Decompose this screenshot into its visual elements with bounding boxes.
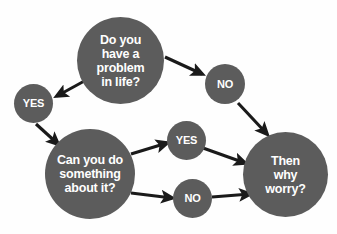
- node-problem-question[interactable]: Do you have a problem in life?: [77, 17, 164, 104]
- arrow-cando-to-no: [131, 193, 172, 198]
- flowchart-diagram: Do you have a problem in life? YES NO Ca…: [0, 0, 337, 234]
- node-no-has-problem-label: NO: [215, 78, 235, 90]
- arrow-no-to-worry: [238, 103, 267, 134]
- node-can-do-something-question[interactable]: Can you do something about it?: [45, 129, 135, 219]
- node-yes-has-problem-label: YES: [21, 97, 46, 109]
- arrow-yes-to-worry: [203, 148, 245, 163]
- arrow-problem-to-no: [165, 57, 202, 74]
- node-yes-can-do[interactable]: YES: [167, 121, 206, 160]
- node-can-do-something-label: Can you do something about it?: [55, 153, 125, 195]
- node-yes-can-do-label: YES: [174, 134, 199, 146]
- node-no-can-do-label: NO: [182, 192, 202, 204]
- node-then-why-worry-conclusion[interactable]: Then why worry?: [243, 132, 328, 217]
- node-problem-label: Do you have a problem in life?: [95, 33, 147, 89]
- arrow-no2-to-worry: [212, 194, 250, 197]
- node-yes-has-problem[interactable]: YES: [14, 84, 53, 123]
- node-then-why-worry-label: Then why worry?: [263, 154, 307, 196]
- node-no-can-do[interactable]: NO: [173, 179, 212, 218]
- node-no-has-problem[interactable]: NO: [205, 64, 245, 104]
- arrow-cando-to-yes: [131, 143, 167, 154]
- arrow-yes-to-cando: [36, 124, 58, 144]
